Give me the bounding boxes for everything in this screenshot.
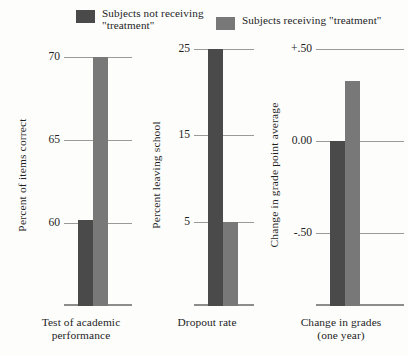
y-axis-tick-label: +.50 — [282, 42, 312, 55]
legend-entry-control: Subjects not receiving "treatment" — [76, 8, 204, 31]
legend-entry-treatment: Subjects receiving "treatment" — [216, 15, 382, 30]
gridline — [194, 49, 254, 50]
bar-treatment-panel-2 — [345, 81, 360, 306]
chart-legend: Subjects not receiving "treatment" Subje… — [0, 8, 408, 40]
y-axis-tick-label: 65 — [30, 133, 60, 146]
bar-control-panel-2 — [330, 141, 345, 306]
y-axis-tick-label: 5 — [160, 215, 190, 228]
gridline — [316, 49, 404, 50]
plot-area-panel-0: 706560 — [30, 44, 134, 306]
category-label-1: Dropout rate — [152, 316, 262, 329]
bar-control-panel-1 — [208, 49, 223, 306]
y-axis-tick-label: 0.00 — [282, 134, 312, 147]
chart-panel-academic-performance: Percent of items correct 706560 — [4, 44, 134, 309]
plot-area-panel-2: +.500.00-.50 — [282, 44, 406, 306]
legend-swatch-treatment — [216, 17, 235, 30]
chart-panel-change-in-grades: Change in grade point average +.500.00-.… — [260, 44, 406, 309]
bar-treatment-panel-0 — [93, 57, 108, 306]
chart-panel-dropout-rate: Percent leaving school 25155 — [138, 44, 256, 309]
legend-swatch-control — [76, 10, 95, 23]
legend-label-control: Subjects not receiving "treatment" — [102, 8, 204, 31]
legend-label-treatment: Subjects receiving "treatment" — [242, 15, 382, 27]
bar-control-panel-0 — [78, 220, 93, 306]
plot-area-panel-1: 25155 — [160, 44, 256, 306]
gridline — [194, 135, 254, 136]
bar-treatment-panel-1 — [223, 222, 238, 306]
category-label-0: Test of academic performance — [16, 316, 146, 343]
y-axis-tick-label: 70 — [30, 50, 60, 63]
y-axis-title-panel-2: Change in grade point average — [266, 44, 282, 306]
y-axis-tick-label: 60 — [30, 216, 60, 229]
category-label-2: Change in grades (one year) — [276, 316, 406, 343]
y-axis-tick-label: -.50 — [282, 226, 312, 239]
y-axis-tick-label: 15 — [160, 128, 190, 141]
y-axis-title-panel-0: Percent of items correct — [14, 44, 30, 306]
y-axis-tick-label: 25 — [160, 42, 190, 55]
